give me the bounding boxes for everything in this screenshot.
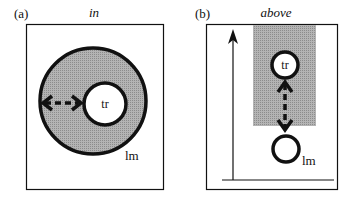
panel-a-tag: (a) <box>14 6 28 21</box>
landmark-label: lm <box>125 148 139 163</box>
panel-a: (a) in tr lm <box>14 5 164 190</box>
panel-b-title: above <box>260 5 291 20</box>
panel-b: (b) above tr lm <box>195 5 338 190</box>
landmark-circle <box>273 136 299 162</box>
landmark-label: lm <box>302 153 316 168</box>
trajector-label: tr <box>101 97 108 111</box>
panel-a-title: in <box>89 5 99 20</box>
trajector-label: tr <box>281 58 288 72</box>
figure: (a) in tr lm (b) above tr lm <box>0 0 363 198</box>
panel-b-tag: (b) <box>195 6 210 21</box>
